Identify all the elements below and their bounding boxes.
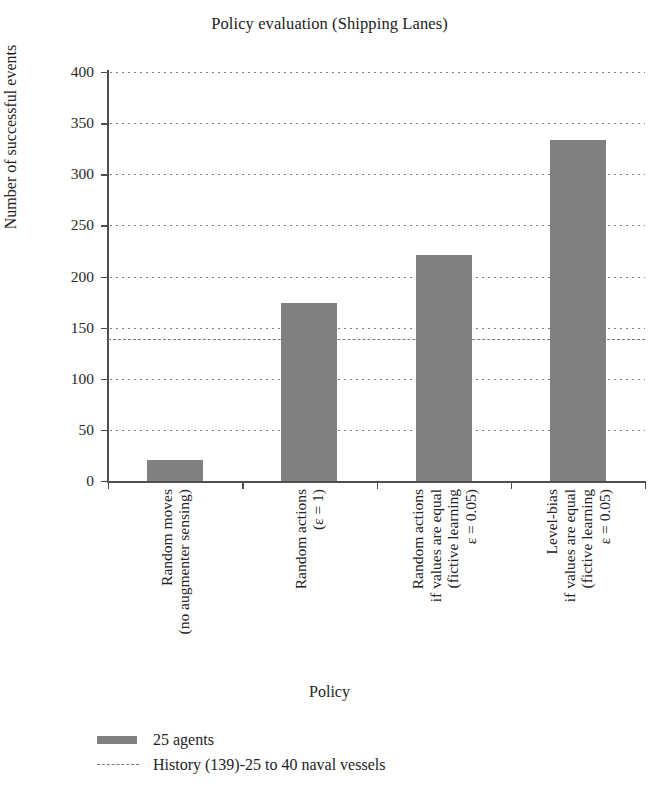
legend-swatch xyxy=(97,764,153,765)
grid-line xyxy=(108,72,645,73)
x-tick-label-line: Random actions xyxy=(409,489,427,679)
x-tick-label-line: Random actions xyxy=(292,489,310,679)
history-reference-line xyxy=(108,339,645,340)
x-tick-label-line: Level-bias xyxy=(543,489,561,679)
x-tick-label-line: ε = 0.05) xyxy=(595,489,613,679)
legend-swatch xyxy=(97,736,153,744)
grid-line xyxy=(108,123,645,124)
y-tick-mark xyxy=(101,379,108,380)
y-axis-title: Number of successful events xyxy=(2,0,20,302)
y-tick-mark xyxy=(101,123,108,124)
x-tick-mark xyxy=(645,482,646,489)
x-axis-tick-labels: Random moves(no augmenter sensing)Random… xyxy=(0,489,659,679)
x-tick-mark xyxy=(511,482,512,489)
x-tick-label-line: if values are equal xyxy=(426,489,444,679)
x-tick-label-line: (fictive learning xyxy=(578,489,596,679)
y-tick-mark xyxy=(101,72,108,73)
y-tick-mark xyxy=(101,174,108,175)
x-tick-label-line: if values are equal xyxy=(560,489,578,679)
legend-dashed-line-icon xyxy=(97,764,139,765)
legend-item[interactable]: History (139)-25 to 40 naval vessels xyxy=(97,752,617,777)
bar xyxy=(281,303,337,481)
bar xyxy=(550,140,606,482)
y-tick-label: 250 xyxy=(34,216,94,234)
x-tick-mark xyxy=(242,482,243,489)
x-tick-label-line: ε = 0.05) xyxy=(461,489,479,679)
x-tick-label-line: (ε = 1) xyxy=(309,489,327,679)
x-tick-label-line: Random moves xyxy=(158,489,176,679)
x-tick-label-line: (fictive learning xyxy=(444,489,462,679)
chart-legend: 25 agentsHistory (139)-25 to 40 naval ve… xyxy=(97,727,617,777)
legend-item[interactable]: 25 agents xyxy=(97,727,617,752)
y-tick-label: 350 xyxy=(34,114,94,132)
legend-label: History (139)-25 to 40 naval vessels xyxy=(153,756,385,774)
x-tick-mark xyxy=(377,482,378,489)
y-tick-label: 150 xyxy=(34,319,94,337)
legend-label: 25 agents xyxy=(153,731,214,749)
y-tick-label: 200 xyxy=(34,268,94,286)
y-tick-mark xyxy=(101,225,108,226)
y-tick-label: 300 xyxy=(34,165,94,183)
chart-title: Policy evaluation (Shipping Lanes) xyxy=(0,14,659,34)
y-tick-mark xyxy=(101,277,108,278)
y-axis-tick-labels: 050100150200250300350400 xyxy=(34,0,94,801)
y-tick-label: 400 xyxy=(34,63,94,81)
x-axis-title: Policy xyxy=(0,683,659,701)
y-tick-mark xyxy=(101,430,108,431)
x-tick-mark xyxy=(108,482,109,489)
plot-area xyxy=(108,72,645,481)
y-tick-label: 0 xyxy=(34,472,94,490)
legend-bar-swatch-icon xyxy=(97,736,137,744)
chart-figure: Policy evaluation (Shipping Lanes) 05010… xyxy=(0,0,659,801)
y-tick-label: 50 xyxy=(34,421,94,439)
y-tick-mark xyxy=(101,328,108,329)
y-tick-mark xyxy=(101,481,108,482)
bar xyxy=(416,255,472,481)
x-tick-label-line: (no augmenter sensing) xyxy=(175,489,193,679)
bar xyxy=(147,460,203,481)
y-tick-label: 100 xyxy=(34,370,94,388)
